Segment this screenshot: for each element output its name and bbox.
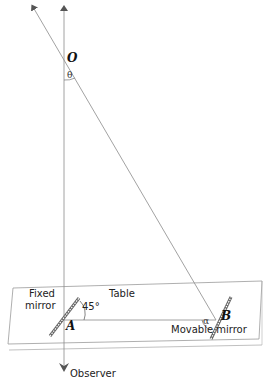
label-movable-mirror: Movable mirror (171, 325, 247, 335)
label-point-o: O (67, 52, 77, 64)
label-angle-45: 45° (82, 302, 100, 312)
label-fixed-mirror-line1: Fixed (29, 289, 55, 299)
label-angle-theta: θ (67, 71, 72, 80)
label-fixed-mirror-line2: mirror (25, 301, 56, 311)
table-front-edge (9, 345, 262, 350)
label-point-b: B (221, 310, 231, 322)
reflected-ray (33, 7, 216, 320)
label-table: Table (109, 289, 135, 299)
label-observer: Observer (70, 369, 116, 379)
label-point-a: A (66, 320, 75, 332)
